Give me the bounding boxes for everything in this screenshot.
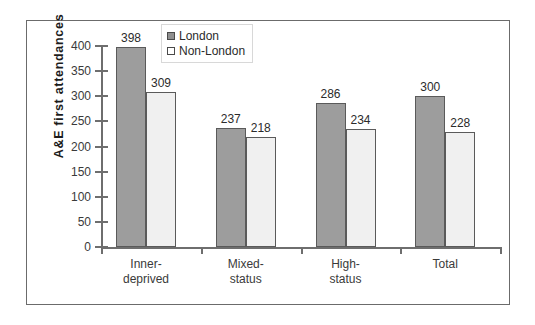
y-axis-tick bbox=[95, 196, 108, 198]
y-axis-tick-label-wrap: 300 bbox=[45, 90, 91, 102]
x-axis-tick bbox=[201, 247, 203, 254]
y-axis-tick-label: 250 bbox=[51, 115, 91, 127]
bar-non-london[interactable] bbox=[346, 129, 376, 247]
chart-legend[interactable]: London Non-London bbox=[161, 24, 253, 63]
bar-non-london[interactable] bbox=[445, 132, 475, 247]
legend-swatch-london-icon bbox=[167, 32, 175, 40]
y-axis-tick-label: 150 bbox=[51, 166, 91, 178]
y-axis-tick bbox=[95, 171, 108, 173]
y-axis-tick-label-wrap: 400 bbox=[45, 40, 91, 52]
bar-value-label: 234 bbox=[338, 114, 384, 126]
x-axis-category-label: High- status bbox=[296, 257, 396, 287]
x-axis-tick bbox=[500, 247, 502, 254]
y-axis-tick-label: 50 bbox=[51, 216, 91, 228]
x-axis-category-label: Mixed- status bbox=[196, 257, 296, 287]
y-axis-tick-label: 100 bbox=[51, 191, 91, 203]
x-axis-category-label: Inner- deprived bbox=[96, 257, 196, 287]
y-axis-tick-label-wrap: 100 bbox=[45, 191, 91, 203]
y-axis-tick-label-wrap: 50 bbox=[45, 216, 91, 228]
y-axis-tick-label-wrap: 150 bbox=[45, 166, 91, 178]
bar-london[interactable] bbox=[216, 128, 246, 247]
x-axis-tick bbox=[400, 247, 402, 254]
bar-value-label: 300 bbox=[407, 81, 453, 93]
y-axis-tick-label: 350 bbox=[51, 65, 91, 77]
legend-item-non-london[interactable]: Non-London bbox=[167, 43, 245, 58]
y-axis-tick-label: 0 bbox=[51, 241, 91, 253]
y-axis-tick-label: 300 bbox=[51, 90, 91, 102]
y-axis-tick-label: 200 bbox=[51, 141, 91, 153]
plot-area: A&E first attendances 050100150200250300… bbox=[27, 21, 509, 304]
x-axis-category-label: Total bbox=[395, 257, 495, 272]
y-axis-tick-label: 400 bbox=[51, 40, 91, 52]
legend-swatch-non-london-icon bbox=[167, 47, 175, 55]
chart-frame: A&E first attendances 050100150200250300… bbox=[26, 20, 510, 305]
x-axis-tick bbox=[301, 247, 303, 254]
bar-non-london[interactable] bbox=[146, 92, 176, 247]
bar-value-label: 309 bbox=[138, 77, 184, 89]
x-axis-tick bbox=[101, 247, 103, 254]
bar-non-london[interactable] bbox=[246, 137, 276, 247]
y-axis-tick bbox=[95, 70, 108, 72]
y-axis-tick bbox=[95, 146, 108, 148]
bar-value-label: 286 bbox=[308, 88, 354, 100]
y-axis-tick bbox=[95, 120, 108, 122]
legend-label-non-london: Non-London bbox=[179, 45, 245, 57]
y-axis-tick bbox=[95, 95, 108, 97]
y-axis-tick-label-wrap: 350 bbox=[45, 65, 91, 77]
bar-value-label: 228 bbox=[437, 117, 483, 129]
legend-item-london[interactable]: London bbox=[167, 28, 245, 43]
y-axis-tick bbox=[95, 45, 108, 47]
y-axis-tick-label-wrap: 0 bbox=[45, 241, 91, 253]
bar-value-label: 218 bbox=[238, 122, 284, 134]
legend-label-london: London bbox=[179, 30, 219, 42]
y-axis-tick-label-wrap: 250 bbox=[45, 115, 91, 127]
y-axis-tick-label-wrap: 200 bbox=[45, 141, 91, 153]
y-axis-tick bbox=[95, 221, 108, 223]
bar-value-label: 398 bbox=[108, 32, 154, 44]
